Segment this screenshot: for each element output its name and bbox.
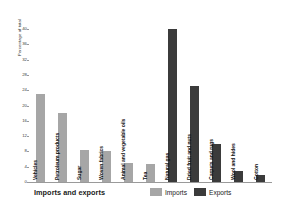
legend-item-exports: Exports (194, 188, 231, 196)
legend-swatch-exports (194, 188, 206, 196)
y-tick-label: 24 (0, 86, 27, 94)
y-tick-label: 12 (0, 132, 27, 140)
bar-category-label: Animal and vegetable oils (120, 119, 126, 180)
y-tick-label: 32 (0, 56, 27, 64)
bar-category-label: Vehicles (32, 160, 38, 180)
bar-category-label: Natural gas (164, 153, 170, 180)
y-tick-label: 4 (0, 163, 27, 171)
bar-category-label: Woven fabrics (98, 146, 104, 180)
bar-group: Animal and vegetable oils (124, 29, 133, 182)
y-tick-label: 0 (0, 178, 27, 186)
bar-category-label: Wool and hides (230, 143, 236, 180)
x-axis-line (29, 182, 272, 183)
plot-area: VehiclesPetroleum productsSugarWoven fab… (29, 29, 272, 182)
bar-category-label: Carpets and rugs (208, 139, 214, 180)
y-tick-label: 8 (0, 147, 27, 155)
bar-group: Cotton (256, 29, 265, 182)
y-tick-label: 28 (0, 71, 27, 79)
y-tick-label: 40 (0, 25, 27, 33)
bar-category-label: Tea (142, 172, 148, 180)
legend-label-exports: Exports (209, 189, 231, 196)
bar-group: Vehicles (36, 29, 45, 182)
y-tick-label: 20 (0, 102, 27, 110)
bar-category-label: Petroleum products (54, 133, 60, 180)
legend-swatch-imports (150, 188, 162, 196)
bar-category-label: Cotton (253, 164, 259, 180)
bar-category-label: Dried fruit and nuts (186, 134, 192, 180)
bar-group: Carpets and rugs (212, 29, 221, 182)
bar-group: Wool and hides (234, 29, 243, 182)
bar-group: Petroleum products (58, 29, 67, 182)
bar-group: Woven fabrics (102, 29, 111, 182)
bar-category-label: Sugar (76, 166, 82, 180)
bar-group: Tea (146, 29, 155, 182)
legend-item-imports: Imports (150, 188, 187, 196)
chart-legend: Imports Exports (150, 188, 231, 196)
y-tick-label: 16 (0, 117, 27, 125)
bar-series-group: VehiclesPetroleum productsSugarWoven fab… (29, 29, 272, 182)
bar-chart: Percentage of total 0481216202428323640 … (0, 0, 290, 209)
chart-title: Imports and exports (34, 188, 105, 197)
y-tick-label: 36 (0, 40, 27, 48)
legend-label-imports: Imports (165, 189, 187, 196)
bar-group: Natural gas (168, 29, 177, 182)
bar-group: Sugar (80, 29, 89, 182)
bar-group: Dried fruit and nuts (190, 29, 199, 182)
